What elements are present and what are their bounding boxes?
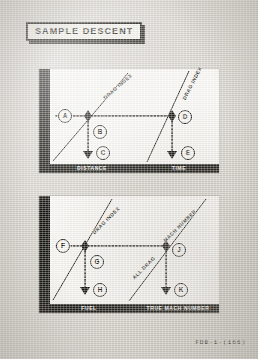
chart1-callout-a[interactable]: A bbox=[58, 109, 72, 123]
chart1-callout-b[interactable]: B bbox=[93, 125, 107, 139]
figure-reference-code: FDB-1-(166) bbox=[195, 339, 246, 346]
chart1-x-axis-label-time: TIME bbox=[149, 164, 209, 173]
chart2-marker-h-arrow bbox=[80, 287, 90, 295]
page-title: SAMPLE DESCENT bbox=[35, 26, 133, 36]
chart2-marker-k-arrow bbox=[161, 287, 171, 295]
chart1-marker-c-arrow bbox=[83, 151, 93, 159]
chart1-callout-d[interactable]: D bbox=[178, 110, 192, 124]
chart2-callout-g[interactable]: G bbox=[90, 255, 104, 269]
chart1-y-axis bbox=[39, 69, 50, 173]
chart2-callout-h[interactable]: H bbox=[93, 283, 107, 297]
chart1-marker-d-arrow bbox=[168, 110, 176, 122]
chart1-x-axis-label-distance: DISTANCE bbox=[50, 164, 134, 173]
page-title-box: SAMPLE DESCENT bbox=[26, 22, 142, 41]
descent-fuel-mach-chart: ALTITUDE FUEL TRUE MACH NUMBER DRAG INDE bbox=[39, 196, 219, 313]
chart1-callout-e[interactable]: E bbox=[181, 146, 195, 160]
chart2-callout-k[interactable]: K bbox=[174, 283, 188, 297]
chart1-callout-c[interactable]: C bbox=[96, 146, 110, 160]
descent-distance-time-chart: ALTITUDE DISTANCE TIME DRAG INDEX DRAG bbox=[39, 69, 219, 173]
chart2-x-axis-label-true-mach-number: TRUE MACH NUMBER bbox=[139, 304, 217, 313]
chart1-marker-e-arrow bbox=[167, 151, 177, 159]
chart2-y-axis-label: ALTITUDE bbox=[39, 248, 50, 254]
chart1-y-axis-label: ALTITUDE bbox=[39, 109, 50, 115]
chart2-x-axis-label-fuel: FUEL bbox=[50, 304, 128, 313]
chart2-callout-f[interactable]: F bbox=[56, 239, 70, 253]
chart2-y-axis bbox=[39, 196, 50, 313]
chart1-marker-b-arrow bbox=[84, 110, 92, 122]
chart2-callout-j[interactable]: J bbox=[172, 243, 186, 257]
